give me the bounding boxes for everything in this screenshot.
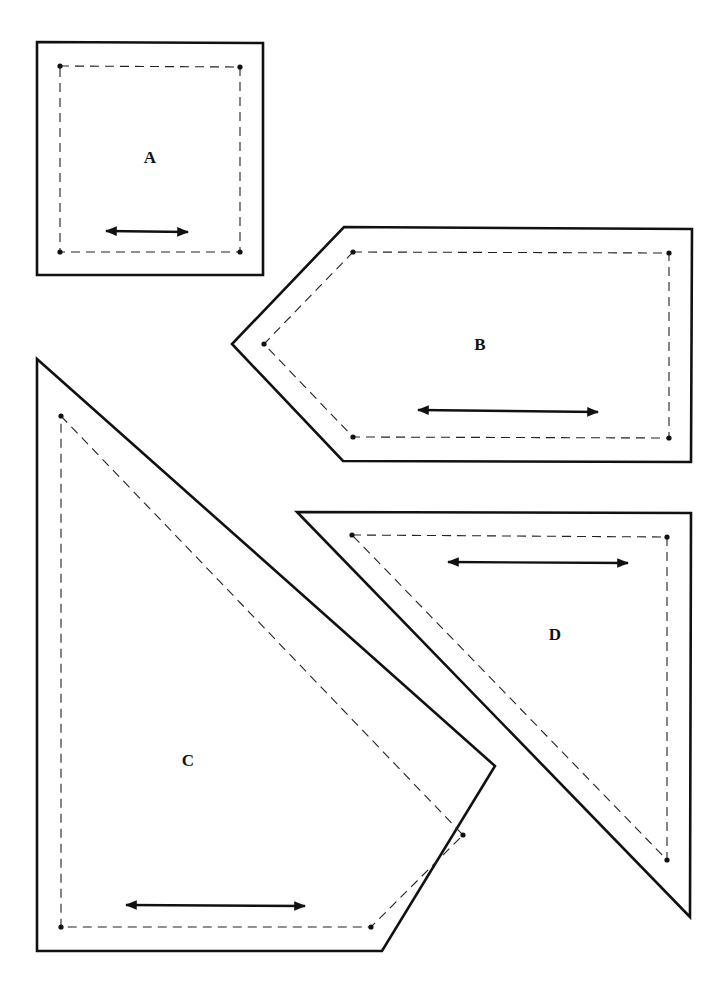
seam-line	[352, 535, 667, 860]
corner-dot-icon	[261, 341, 266, 346]
cut-line	[297, 512, 691, 917]
piece-label: C	[182, 751, 194, 770]
pattern-piece-b: B	[232, 227, 692, 462]
piece-label: A	[144, 148, 157, 167]
cut-line	[232, 227, 692, 462]
grainline-arrow-icon	[448, 562, 628, 563]
corner-dot-icon	[237, 64, 242, 69]
cut-line	[37, 359, 495, 951]
grainline-arrow-icon	[126, 905, 305, 906]
corner-dot-icon	[350, 434, 355, 439]
corner-dot-icon	[666, 435, 671, 440]
corner-dot-icon	[460, 832, 465, 837]
corner-dot-icon	[666, 250, 671, 255]
corner-dot-icon	[664, 534, 669, 539]
pattern-canvas: A B C D	[0, 0, 727, 982]
corner-dot-icon	[350, 249, 355, 254]
pattern-piece-d: D	[297, 512, 691, 917]
corner-dot-icon	[57, 63, 62, 68]
pattern-piece-c: C	[37, 359, 495, 951]
corner-dot-icon	[664, 857, 669, 862]
piece-label: B	[474, 335, 485, 354]
grainline-arrow-icon	[418, 410, 598, 412]
corner-dot-icon	[349, 532, 354, 537]
corner-dot-icon	[58, 924, 63, 929]
grainline-arrow-icon	[106, 231, 188, 232]
corner-dot-icon	[368, 924, 373, 929]
corner-dot-icon	[237, 249, 242, 254]
pattern-piece-a: A	[37, 42, 263, 275]
corner-dot-icon	[58, 413, 63, 418]
corner-dot-icon	[57, 249, 62, 254]
piece-label: D	[549, 625, 561, 644]
seam-line	[61, 416, 463, 927]
